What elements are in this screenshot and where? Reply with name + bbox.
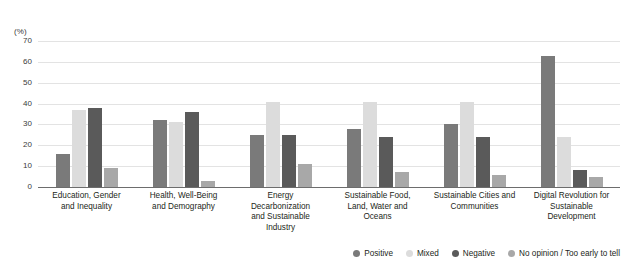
category-label-line: Industry <box>234 223 327 234</box>
bar-group <box>329 41 426 187</box>
legend-label: Positive <box>364 249 393 258</box>
bar[interactable] <box>589 177 603 187</box>
y-tick-label: 50 <box>23 78 32 87</box>
bar[interactable] <box>153 120 167 187</box>
category-label: Health, Well-Beingand Demography <box>135 191 232 233</box>
category-label: Sustainable Food,Land, Water andOceans <box>329 191 426 233</box>
gridline-rule <box>38 187 620 188</box>
y-tick-label: 10 <box>23 161 32 170</box>
category-label-line: Land, Water and <box>331 202 424 213</box>
bar-chart: (%) 010203040506070 Education, Genderand… <box>0 0 628 275</box>
bar-set <box>38 41 135 187</box>
y-tick-label: 0 <box>28 182 32 191</box>
bar-set <box>135 41 232 187</box>
y-tick-label: 30 <box>23 119 32 128</box>
y-tick-label: 60 <box>23 57 32 66</box>
bar[interactable] <box>88 108 102 187</box>
bar[interactable] <box>282 135 296 187</box>
bar-set <box>523 41 620 187</box>
bar[interactable] <box>395 172 409 187</box>
category-label-line: Education, Gender <box>40 191 133 202</box>
legend-swatch-icon <box>452 250 459 257</box>
y-tick-label: 70 <box>23 36 32 45</box>
category-label-line: Digital Revolution for <box>525 191 618 202</box>
bar[interactable] <box>201 181 215 187</box>
legend-swatch-icon <box>353 250 360 257</box>
bar[interactable] <box>557 137 571 187</box>
bar[interactable] <box>363 102 377 188</box>
bar[interactable] <box>56 154 70 187</box>
category-label-line: and Inequality <box>40 202 133 213</box>
category-label-line: Sustainable <box>525 202 618 213</box>
bar[interactable] <box>460 102 474 188</box>
legend-label: Mixed <box>417 249 439 258</box>
category-label-line: Sustainable Cities and <box>428 191 521 202</box>
legend-label: No opinion / Too early to tell <box>519 249 620 258</box>
bar[interactable] <box>250 135 264 187</box>
bar[interactable] <box>104 168 118 187</box>
bar[interactable] <box>492 175 506 188</box>
bar[interactable] <box>379 137 393 187</box>
bar-set <box>329 41 426 187</box>
category-label-line: Decarbonization <box>234 202 327 213</box>
category-label-line: Sustainable Food, <box>331 191 424 202</box>
bar-group <box>38 41 135 187</box>
bar-group <box>426 41 523 187</box>
bar[interactable] <box>266 102 280 188</box>
chart-legend: PositiveMixedNegativeNo opinion / Too ea… <box>0 249 620 258</box>
category-label: Digital Revolution forSustainableDevelop… <box>523 191 620 233</box>
bar-set <box>232 41 329 187</box>
legend-item[interactable]: Mixed <box>406 249 439 258</box>
bar-groups <box>38 41 620 187</box>
bar[interactable] <box>185 112 199 187</box>
category-label: Education, Genderand Inequality <box>38 191 135 233</box>
legend-item[interactable]: No opinion / Too early to tell <box>508 249 620 258</box>
bar[interactable] <box>541 56 555 187</box>
legend-item[interactable]: Negative <box>452 249 495 258</box>
category-labels: Education, Genderand InequalityHealth, W… <box>38 191 620 233</box>
bar-group <box>232 41 329 187</box>
bar[interactable] <box>72 110 86 187</box>
bar[interactable] <box>476 137 490 187</box>
y-tick-label: 40 <box>23 99 32 108</box>
category-label-line: and Demography <box>137 202 230 213</box>
bar[interactable] <box>347 129 361 187</box>
legend-swatch-icon <box>508 250 515 257</box>
category-label-line: Communities <box>428 202 521 213</box>
category-label: Sustainable Cities andCommunities <box>426 191 523 233</box>
legend-item[interactable]: Positive <box>353 249 393 258</box>
category-label-line: Development <box>525 212 618 223</box>
bar[interactable] <box>298 164 312 187</box>
category-label-line: Energy <box>234 191 327 202</box>
bar-group <box>523 41 620 187</box>
category-label-line: Health, Well-Being <box>137 191 230 202</box>
bar-set <box>426 41 523 187</box>
bar[interactable] <box>573 170 587 187</box>
category-label: EnergyDecarbonizationand SustainableIndu… <box>232 191 329 233</box>
category-label-line: and Sustainable <box>234 212 327 223</box>
plot-area: 010203040506070 <box>38 41 620 187</box>
y-axis-unit-label: (%) <box>14 27 27 36</box>
bar-group <box>135 41 232 187</box>
y-tick-label: 20 <box>23 140 32 149</box>
legend-label: Negative <box>463 249 495 258</box>
legend-swatch-icon <box>406 250 413 257</box>
bar[interactable] <box>169 122 183 187</box>
category-label-line: Oceans <box>331 212 424 223</box>
bar[interactable] <box>444 124 458 187</box>
